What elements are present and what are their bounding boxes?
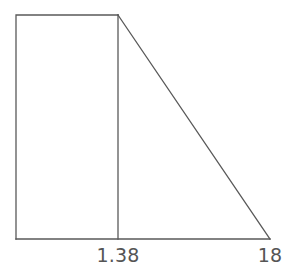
tick-label-outer: 18 xyxy=(234,246,287,265)
tick-label-inner: 1.38 xyxy=(78,246,158,265)
distribution-outline-svg xyxy=(0,0,287,277)
plot-background xyxy=(0,0,287,277)
diagram-canvas: 1.38 18 xyxy=(0,0,287,277)
